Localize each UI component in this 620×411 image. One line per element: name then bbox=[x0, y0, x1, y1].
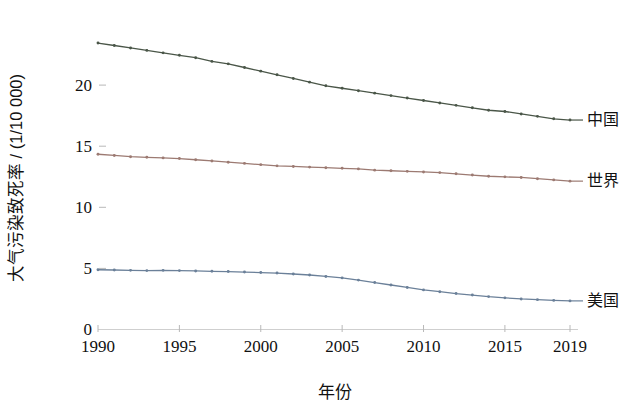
series-marker bbox=[487, 109, 490, 112]
x-tick-label: 2015 bbox=[488, 337, 522, 356]
series-marker bbox=[438, 101, 441, 104]
series-marker bbox=[243, 271, 246, 274]
series-marker bbox=[438, 290, 441, 293]
series-marker bbox=[422, 288, 425, 291]
x-tick-label: 2000 bbox=[244, 337, 278, 356]
series-marker bbox=[552, 178, 555, 181]
series-marker bbox=[210, 270, 213, 273]
series-marker bbox=[390, 284, 393, 287]
series-marker bbox=[324, 275, 327, 278]
series-marker bbox=[422, 171, 425, 174]
y-tick-label: 10 bbox=[75, 198, 92, 217]
series-marker bbox=[113, 269, 116, 272]
y-tick-label: 5 bbox=[84, 259, 93, 278]
series-marker bbox=[373, 169, 376, 172]
y-tick-label: 20 bbox=[75, 76, 92, 95]
series-marker bbox=[357, 279, 360, 282]
series-marker bbox=[390, 169, 393, 172]
series-marker bbox=[406, 286, 409, 289]
series-marker bbox=[227, 62, 230, 65]
series-marker bbox=[422, 99, 425, 102]
series-marker bbox=[503, 110, 506, 113]
series-marker bbox=[471, 294, 474, 297]
series-marker bbox=[455, 172, 458, 175]
series-marker bbox=[487, 175, 490, 178]
chart-figure: 05101520 1990199520002005201020152019 中国… bbox=[0, 0, 620, 411]
series-marker bbox=[341, 167, 344, 170]
x-tick-label: 2010 bbox=[407, 337, 441, 356]
series-marker bbox=[552, 299, 555, 302]
series-marker bbox=[113, 44, 116, 47]
series-marker bbox=[259, 271, 262, 274]
series-marker bbox=[406, 170, 409, 173]
series-marker bbox=[276, 272, 279, 275]
series-marker bbox=[243, 66, 246, 69]
series-marker bbox=[97, 42, 100, 45]
series-marker bbox=[503, 296, 506, 299]
series-marker bbox=[357, 89, 360, 92]
x-axis-title: 年份 bbox=[318, 383, 352, 402]
series-marker bbox=[373, 281, 376, 284]
series-marker bbox=[503, 175, 506, 178]
series-marker bbox=[227, 270, 230, 273]
series-marker bbox=[357, 167, 360, 170]
series-label-china: 中国 bbox=[587, 111, 619, 128]
series-marker bbox=[324, 166, 327, 169]
series-marker bbox=[292, 165, 295, 168]
series-marker bbox=[145, 156, 148, 159]
series-marker bbox=[210, 60, 213, 63]
series-marker bbox=[276, 73, 279, 76]
series-marker bbox=[471, 174, 474, 177]
line-chart: 05101520 1990199520002005201020152019 中国… bbox=[0, 0, 620, 411]
series-marker bbox=[162, 269, 165, 272]
y-axis-title: 大气污染致死率 / (1/10 000) bbox=[7, 74, 25, 282]
series-marker bbox=[536, 298, 539, 301]
series-marker bbox=[97, 153, 100, 156]
series-marker bbox=[455, 104, 458, 107]
series-marker bbox=[210, 160, 213, 163]
series-marker bbox=[129, 155, 132, 158]
series-marker bbox=[227, 161, 230, 164]
series-marker bbox=[194, 56, 197, 59]
x-tick-label: 2019 bbox=[553, 337, 587, 356]
series-marker bbox=[178, 269, 181, 272]
series-marker bbox=[162, 51, 165, 54]
x-tick-label: 1995 bbox=[162, 337, 196, 356]
series-marker bbox=[455, 292, 458, 295]
series-marker bbox=[129, 269, 132, 272]
series-marker bbox=[390, 94, 393, 97]
series-marker bbox=[520, 112, 523, 115]
series-marker bbox=[162, 156, 165, 159]
series-marker bbox=[292, 77, 295, 80]
series-label-usa: 美国 bbox=[587, 292, 619, 309]
series-marker bbox=[178, 157, 181, 160]
series-marker bbox=[97, 268, 100, 271]
x-tick-label: 1990 bbox=[81, 337, 115, 356]
series-marker bbox=[406, 97, 409, 100]
series-marker bbox=[308, 81, 311, 84]
series-marker bbox=[292, 273, 295, 276]
series-marker bbox=[536, 177, 539, 180]
y-tick-label: 15 bbox=[75, 137, 92, 156]
series-marker bbox=[259, 163, 262, 166]
series-marker bbox=[194, 158, 197, 161]
series-marker bbox=[341, 87, 344, 90]
series-marker bbox=[178, 54, 181, 57]
series-marker bbox=[520, 176, 523, 179]
series-marker bbox=[145, 269, 148, 272]
series-marker bbox=[487, 295, 490, 298]
series-marker bbox=[243, 162, 246, 165]
series-marker bbox=[324, 84, 327, 87]
series-marker bbox=[438, 171, 441, 174]
series-marker bbox=[113, 154, 116, 157]
series-label-world: 世界 bbox=[587, 172, 619, 189]
series-marker bbox=[308, 166, 311, 169]
series-marker bbox=[145, 49, 148, 52]
series-marker bbox=[308, 274, 311, 277]
series-marker bbox=[471, 106, 474, 109]
series-marker bbox=[194, 270, 197, 273]
series-marker bbox=[536, 115, 539, 118]
series-marker bbox=[341, 276, 344, 279]
series-marker bbox=[276, 164, 279, 167]
series-marker bbox=[552, 117, 555, 120]
